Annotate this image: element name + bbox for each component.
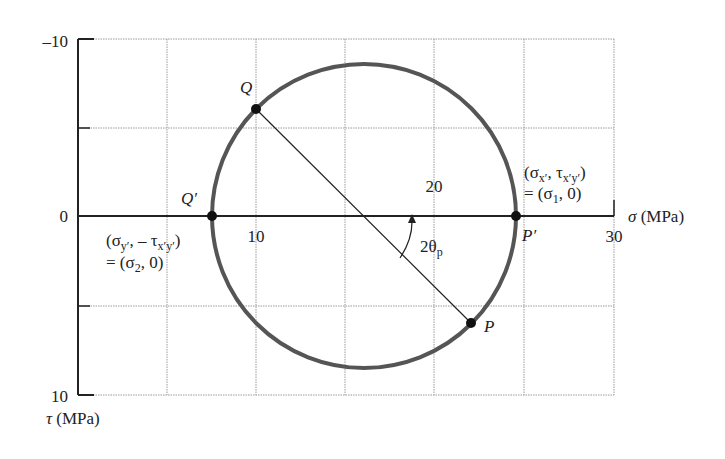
annotation-q-line2: = (σ2, 0) <box>106 253 163 275</box>
point-P-prime <box>511 211 521 221</box>
point-Q-prime <box>207 211 217 221</box>
annotation-p-line2: = (σ1, 0) <box>524 184 581 206</box>
angle-label: 2θp <box>420 237 443 259</box>
annotation-q-line1: (σy′, – τx′y′) <box>106 231 180 253</box>
point-Q <box>251 104 261 114</box>
x-tick-20: 20 <box>426 177 443 196</box>
label-P-prime: P′ <box>521 226 536 245</box>
label-Q-prime: Q′ <box>181 189 197 208</box>
mohr-circle-diagram: –10 0 10 10 20 30 σ (MPa) τ (MPa) Q P Q′… <box>0 0 725 459</box>
sigma-axis-title: σ (MPa) <box>628 207 684 226</box>
label-P: P <box>483 317 494 336</box>
y-tick-bottom: 10 <box>51 387 68 406</box>
x-tick-10: 10 <box>248 227 265 246</box>
y-tick-top: –10 <box>42 32 69 51</box>
x-tick-30: 30 <box>606 227 623 246</box>
tau-axis-title: τ (MPa) <box>46 409 100 428</box>
label-Q: Q <box>240 78 252 97</box>
y-tick-zero: 0 <box>60 207 69 226</box>
axes <box>78 39 614 395</box>
annotation-p-line1: (σx′, τx′y′) <box>524 163 586 185</box>
point-P <box>466 318 476 328</box>
angle-arc <box>400 222 412 258</box>
